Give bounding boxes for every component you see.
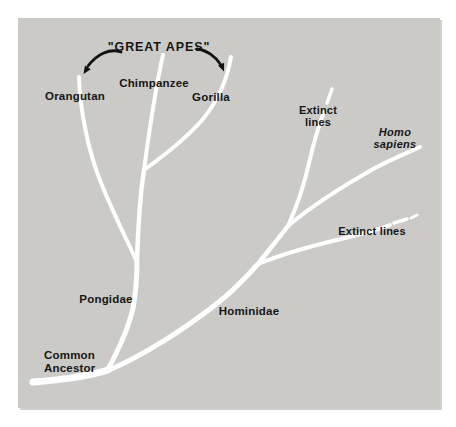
extinct-lower-dash-1 bbox=[394, 219, 407, 223]
extinct-upper-dash bbox=[327, 89, 332, 103]
extinct-lines-lower-label: Extinct lines bbox=[338, 225, 405, 237]
homo-sapiens-label: Homo sapiens bbox=[365, 126, 426, 150]
extinct-lower-dash-2 bbox=[411, 215, 417, 218]
extinct-lines-upper-label: Extinct lines bbox=[299, 104, 337, 128]
chimp-gorilla-stem bbox=[137, 170, 144, 262]
pongidae-branch bbox=[107, 262, 137, 371]
pongidae-label: Pongidae bbox=[79, 293, 132, 306]
homo-sapiens-branch bbox=[288, 147, 420, 226]
orangutan-label: Orangutan bbox=[45, 90, 105, 103]
chimpanzee-label: Chimpanzee bbox=[119, 77, 189, 90]
extinct-upper-branch bbox=[288, 112, 324, 226]
common-ancestor-label: Common Ancestor bbox=[44, 349, 95, 374]
great-apes-title: "GREAT APES" bbox=[108, 41, 211, 55]
hominidae-label: Hominidae bbox=[219, 305, 280, 318]
gorilla-label: Gorilla bbox=[192, 91, 230, 104]
figure-canvas: "GREAT APES" Orangutan Chimpanzee Gorill… bbox=[0, 0, 456, 427]
chimpanzee-branch bbox=[144, 55, 163, 170]
orangutan-branch bbox=[79, 77, 137, 262]
